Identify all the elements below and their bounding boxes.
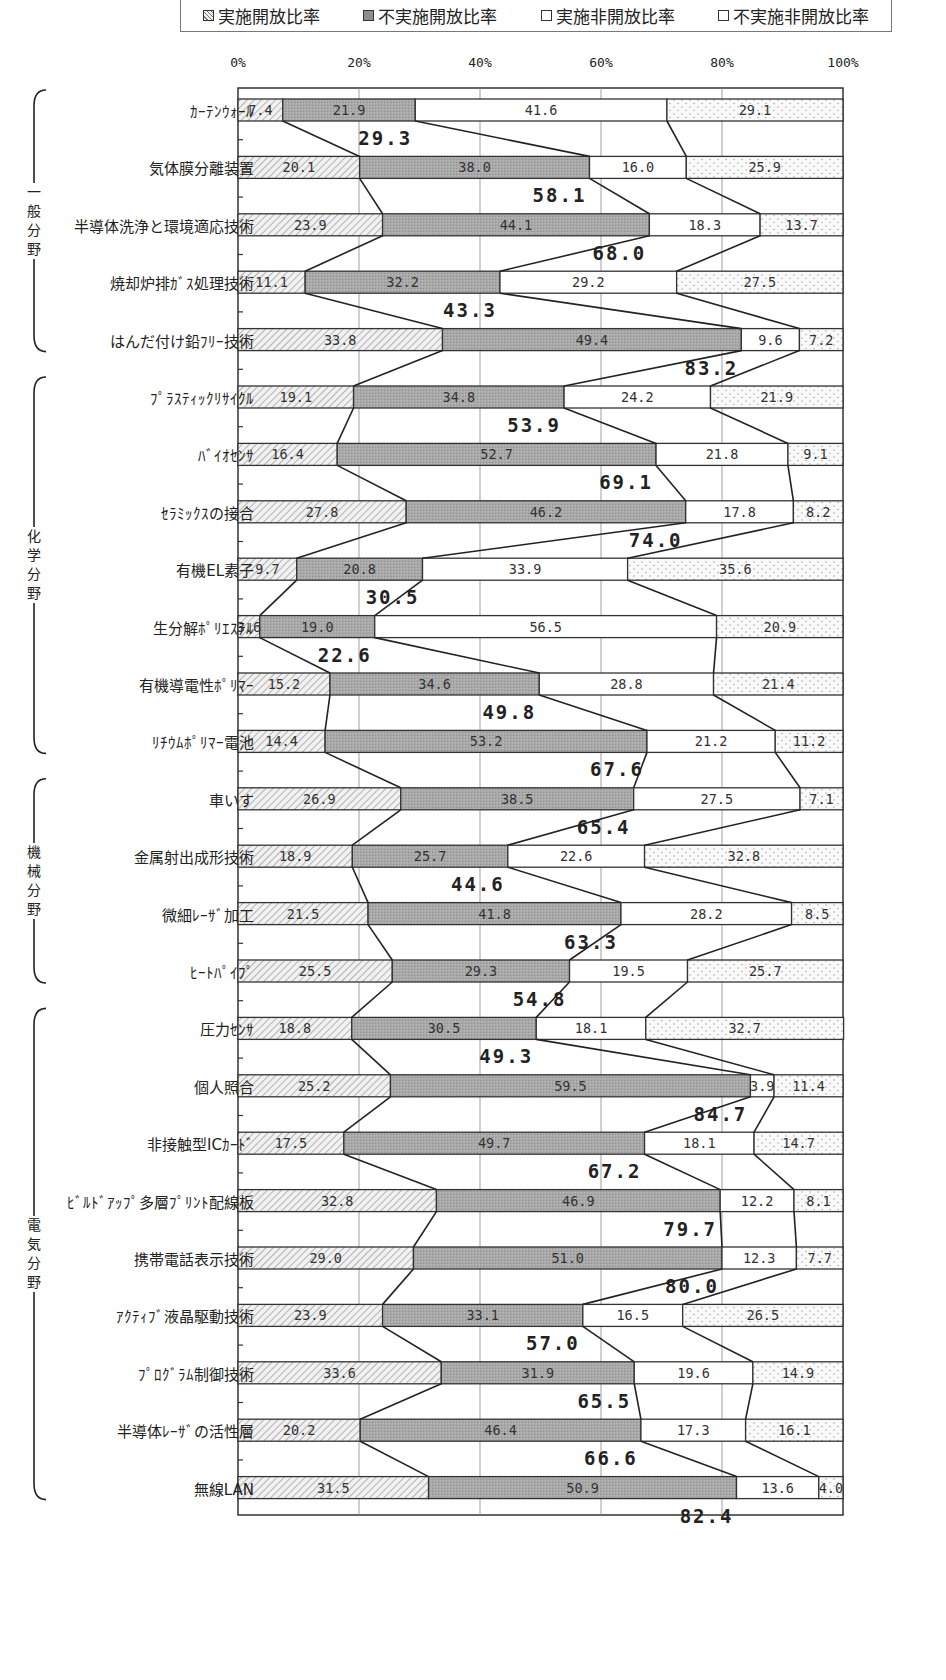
bar-segment: [436, 1190, 720, 1212]
bar-segment: [360, 156, 590, 178]
bar-segment: [260, 616, 375, 638]
bar-segment: [688, 960, 843, 982]
bar-segment: [238, 673, 330, 695]
bar-segment: [711, 386, 843, 408]
bar-segment: [238, 1247, 413, 1269]
bar-segment: [583, 1304, 683, 1326]
bar-segment: [677, 271, 843, 293]
bar-segment: [354, 386, 565, 408]
bar-segment: [717, 616, 843, 638]
bar-segment: [570, 960, 688, 982]
bar-segment: [686, 156, 843, 178]
bar-segment: [683, 1304, 843, 1326]
bar-segment: [774, 1075, 843, 1097]
bar-segment: [238, 1017, 352, 1039]
bar-segment: [621, 903, 792, 925]
bar-segment: [760, 214, 843, 236]
bar-segment: [753, 1362, 843, 1384]
bar-segment: [415, 99, 667, 121]
bar-segment: [800, 788, 843, 810]
bar-segment: [667, 99, 843, 121]
bar-segment: [646, 1017, 844, 1039]
bar-segment: [656, 443, 788, 465]
bar-segment: [423, 558, 628, 580]
bar-segment: [788, 443, 843, 465]
bar-segment: [283, 99, 415, 121]
bar-segment: [238, 1132, 344, 1154]
bar-segment: [746, 1419, 843, 1441]
bar-segment: [564, 386, 710, 408]
bar-segment: [390, 1075, 750, 1097]
bar-segment: [628, 558, 843, 580]
bar-segment: [737, 1477, 819, 1499]
bar-segment: [536, 1017, 646, 1039]
bar-segment: [383, 1304, 583, 1326]
bar-segment: [337, 443, 656, 465]
bar-segment: [754, 1132, 843, 1154]
bar-segment: [325, 730, 647, 752]
bar-segment: [429, 1477, 737, 1499]
group-brackets: [34, 90, 46, 1500]
bar-segment: [401, 788, 634, 810]
group-bracket: [34, 1008, 46, 1499]
stacked-bar-plot: [0, 0, 946, 1680]
bar-segment: [352, 1017, 537, 1039]
bar-segment: [238, 730, 325, 752]
bar-segment: [686, 501, 794, 523]
bar-segment: [238, 443, 337, 465]
bar-segment: [375, 616, 717, 638]
bar-segment: [634, 788, 800, 810]
bar-segment: [750, 1075, 774, 1097]
bar-segment: [238, 386, 354, 408]
bar-segment: [819, 1477, 843, 1499]
bar-segment: [796, 1247, 843, 1269]
bar-segment: [792, 903, 843, 925]
bar-segment: [305, 271, 500, 293]
bar-segment: [647, 730, 775, 752]
bar-segment: [238, 616, 260, 638]
group-bracket: [34, 779, 46, 983]
bar-segment: [775, 730, 843, 752]
bar-segment: [590, 156, 687, 178]
bar-segment: [649, 214, 760, 236]
bar-segment: [406, 501, 686, 523]
bar-segment: [641, 1419, 746, 1441]
bar-segment: [413, 1247, 722, 1269]
bar-segment: [441, 1362, 634, 1384]
bar-segment: [238, 788, 401, 810]
bar-segment: [238, 156, 360, 178]
bar-segment: [634, 1362, 753, 1384]
bar-segment: [297, 558, 423, 580]
bar-segment: [799, 329, 843, 351]
bar-segment: [238, 903, 368, 925]
bar-segment: [238, 214, 383, 236]
bar-segment: [500, 271, 677, 293]
bar-segment: [238, 501, 406, 523]
bar-segment: [344, 1132, 645, 1154]
bar-segment: [392, 960, 569, 982]
bar-segment: [238, 1075, 390, 1097]
bar-segment: [741, 329, 799, 351]
group-bracket: [34, 377, 46, 753]
bar-segment: [238, 1419, 360, 1441]
bar-segment: [238, 271, 305, 293]
bar-segment: [539, 673, 713, 695]
bar-segment: [238, 1190, 436, 1212]
bar-segment: [645, 845, 843, 867]
bar-segment: [794, 1190, 843, 1212]
bar-segment: [238, 960, 392, 982]
bar-segment: [238, 1477, 429, 1499]
bar-segment: [238, 1362, 441, 1384]
bar-segment: [352, 845, 507, 867]
bar-segment: [360, 1419, 641, 1441]
bar-segment: [383, 214, 650, 236]
bar-segment: [238, 845, 352, 867]
group-bracket: [34, 90, 46, 352]
bar-segment: [442, 329, 741, 351]
bar-segment: [720, 1190, 794, 1212]
bar-segment: [238, 1304, 383, 1326]
bar-segment: [368, 903, 621, 925]
bar-segment: [645, 1132, 755, 1154]
bar-segment: [722, 1247, 796, 1269]
bar-segment: [508, 845, 645, 867]
